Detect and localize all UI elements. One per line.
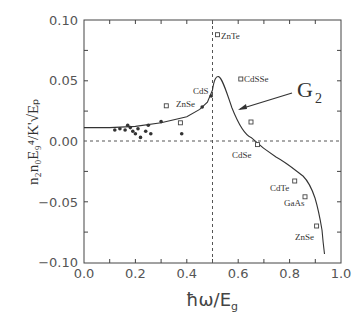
material-labels: ZnTe CdSSe CdS ZnSe CdSe CdTe GaAs ZnSe <box>176 31 314 242</box>
label-znte: ZnTe <box>221 31 240 41</box>
y-tick-label: 0.10 <box>49 13 78 28</box>
arrow-head-icon <box>238 104 247 110</box>
x-tick-label: 1.0 <box>331 266 352 281</box>
filled-points <box>113 94 213 139</box>
g2-curve <box>84 77 325 254</box>
y-axis-title: n₂n₀E₉⁴/K'√Eₚ <box>25 99 41 185</box>
nonlinear-refraction-chart: 0.10 0.05 0.00 −0.05 −0.10 0.0 0.2 0.4 0… <box>0 0 362 326</box>
y-tick-label: −0.05 <box>38 195 78 210</box>
x-tick-label: 0.2 <box>125 266 146 281</box>
y-tick-label: −0.10 <box>38 255 78 270</box>
y-tick-label: 0.00 <box>49 134 78 149</box>
label-znse-top: ZnSe <box>176 99 195 109</box>
g2-arrow <box>240 93 292 109</box>
x-tick-label: 0.0 <box>74 266 95 281</box>
label-znse-bottom: ZnSe <box>295 232 314 242</box>
label-cdsse: CdSSe <box>244 74 269 84</box>
x-axis-title: ħω/Eg <box>186 289 238 313</box>
label-cds: CdS <box>193 86 209 96</box>
x-tick-label: 0.6 <box>228 266 249 281</box>
g2-label: G2 <box>297 77 322 106</box>
x-tick-label: 0.8 <box>279 266 300 281</box>
y-tick-label: 0.05 <box>49 73 78 88</box>
label-cdte: CdTe <box>270 183 289 193</box>
x-tick-label: 0.4 <box>176 266 197 281</box>
label-gaas: GaAs <box>284 198 305 208</box>
label-cdse: CdSe <box>232 150 252 160</box>
